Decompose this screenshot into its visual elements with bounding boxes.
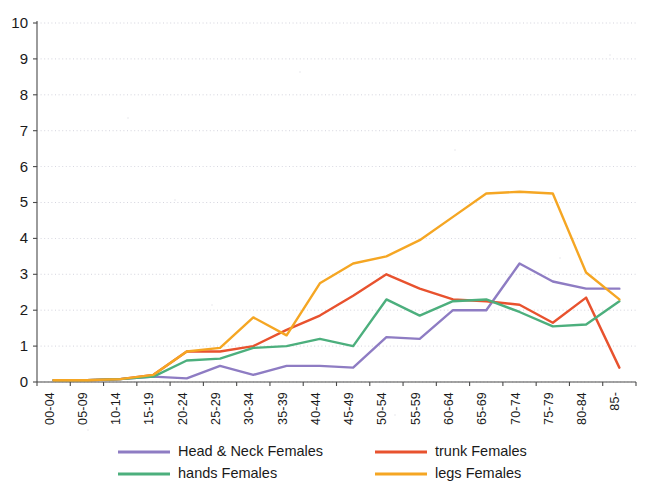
legend-item[interactable]: hands Females bbox=[118, 465, 277, 481]
x-tick-label: 15-19 bbox=[142, 392, 156, 425]
x-tick-label: 35-39 bbox=[276, 392, 290, 425]
x-axis: 00-0405-0910-1415-1920-2425-2930-3435-39… bbox=[37, 382, 636, 425]
y-axis: 012345678910 bbox=[11, 14, 37, 390]
x-tick-label: 85- bbox=[608, 392, 622, 411]
y-tick-label: 5 bbox=[20, 193, 28, 210]
legend-item[interactable]: trunk Females bbox=[375, 443, 527, 459]
x-tick-label: 55-59 bbox=[409, 392, 423, 425]
y-tick-label: 9 bbox=[20, 50, 28, 67]
y-tick-label: 3 bbox=[20, 265, 28, 282]
legend-label: legs Females bbox=[435, 465, 521, 481]
legend-label: Head & Neck Females bbox=[178, 443, 323, 459]
series-line bbox=[54, 264, 620, 381]
y-tick-label: 6 bbox=[20, 158, 28, 175]
legend-item[interactable]: Head & Neck Females bbox=[118, 443, 323, 459]
y-tick-label: 0 bbox=[20, 373, 28, 390]
scan-noise bbox=[87, 54, 611, 431]
x-tick-label: 20-24 bbox=[176, 392, 190, 425]
series-group bbox=[54, 192, 620, 380]
y-tick-label: 2 bbox=[20, 301, 28, 318]
y-tick-label: 10 bbox=[11, 14, 28, 31]
x-tick-label: 75-79 bbox=[542, 392, 556, 425]
legend-label: trunk Females bbox=[435, 443, 527, 459]
x-tick-label: 10-14 bbox=[109, 392, 123, 425]
x-tick-label: 65-69 bbox=[475, 392, 489, 425]
x-tick-label: 25-29 bbox=[209, 392, 223, 425]
y-tick-label: 4 bbox=[20, 229, 28, 246]
y-tick-label: 7 bbox=[20, 122, 28, 139]
x-tick-label: 05-09 bbox=[76, 392, 90, 425]
x-tick-label: 50-54 bbox=[375, 392, 389, 425]
x-tick-label: 40-44 bbox=[309, 392, 323, 425]
x-tick-label: 70-74 bbox=[509, 392, 523, 425]
series-line bbox=[54, 274, 620, 380]
line-chart: 01234567891000-0405-0910-1415-1920-2425-… bbox=[0, 0, 657, 488]
x-tick-label: 00-04 bbox=[43, 392, 57, 425]
chart-canvas: 01234567891000-0405-0910-1415-1920-2425-… bbox=[0, 0, 657, 488]
legend-label: hands Females bbox=[178, 465, 277, 481]
x-tick-label: 30-34 bbox=[242, 392, 256, 425]
x-tick-label: 80-84 bbox=[575, 392, 589, 425]
legend: Head & Neck Femalestrunk Femaleshands Fe… bbox=[118, 443, 527, 481]
x-tick-label: 45-49 bbox=[342, 392, 356, 425]
series-line bbox=[54, 192, 620, 380]
legend-item[interactable]: legs Females bbox=[375, 465, 521, 481]
y-tick-label: 8 bbox=[20, 86, 28, 103]
x-tick-label: 60-64 bbox=[442, 392, 456, 425]
gridlines bbox=[37, 23, 636, 382]
y-tick-label: 1 bbox=[20, 337, 28, 354]
